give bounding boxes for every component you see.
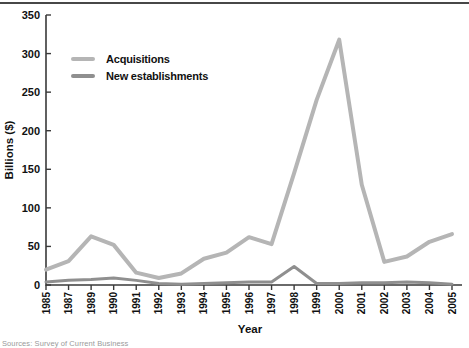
chart-figure: 0501001502002503003501985198719891990199… bbox=[0, 0, 469, 348]
legend-item-new-establishments: New establishments bbox=[71, 70, 208, 82]
x-tick-label: 1997 bbox=[266, 292, 277, 315]
y-tick-label: 350 bbox=[22, 9, 40, 21]
legend-label-acquisitions: Acquisitions bbox=[106, 53, 170, 65]
x-tick-label: 2003 bbox=[401, 292, 412, 315]
acquisitions-line-swatch-icon bbox=[71, 57, 95, 61]
x-tick-label: 2000 bbox=[334, 292, 345, 315]
x-tick-label: 1993 bbox=[176, 292, 187, 315]
x-tick-label: 1994 bbox=[198, 292, 209, 315]
new-establishments-line-swatch-icon bbox=[71, 74, 95, 78]
y-tick-label: 250 bbox=[22, 86, 40, 98]
x-tick-label: 1999 bbox=[311, 292, 322, 315]
x-tick-label: 1991 bbox=[131, 292, 142, 315]
y-tick-label: 0 bbox=[34, 279, 40, 291]
x-tick-label: 2005 bbox=[447, 292, 458, 315]
y-tick-label: 50 bbox=[28, 240, 40, 252]
x-tick-label: 1996 bbox=[244, 292, 255, 315]
y-tick-label: 200 bbox=[22, 125, 40, 137]
figure-top-rule bbox=[0, 2, 469, 4]
legend-label-new-establishments: New establishments bbox=[106, 70, 208, 82]
y-tick-label: 150 bbox=[22, 163, 40, 175]
x-tick-label: 1998 bbox=[289, 292, 300, 315]
x-tick-label: 1985 bbox=[41, 292, 52, 315]
x-tick-label: 2004 bbox=[424, 292, 435, 315]
y-axis-title: Billions ($) bbox=[3, 120, 15, 179]
legend-item-acquisitions: Acquisitions bbox=[71, 53, 208, 65]
x-tick-label: 2001 bbox=[356, 292, 367, 315]
x-axis-title: Year bbox=[238, 323, 263, 335]
source-note: Sources: Survey of Current Business bbox=[2, 339, 128, 348]
y-tick-label: 300 bbox=[22, 48, 40, 60]
x-tick-label: 1995 bbox=[221, 292, 232, 315]
chart-legend: Acquisitions New establishments bbox=[71, 53, 208, 82]
x-tick-label: 1987 bbox=[63, 292, 74, 315]
x-tick-label: 1989 bbox=[86, 292, 97, 315]
x-tick-label: 1992 bbox=[153, 292, 164, 315]
x-tick-label: 2002 bbox=[379, 292, 390, 315]
new-establishments-line bbox=[46, 266, 452, 284]
x-tick-label: 1990 bbox=[108, 292, 119, 315]
y-tick-label: 100 bbox=[22, 202, 40, 214]
